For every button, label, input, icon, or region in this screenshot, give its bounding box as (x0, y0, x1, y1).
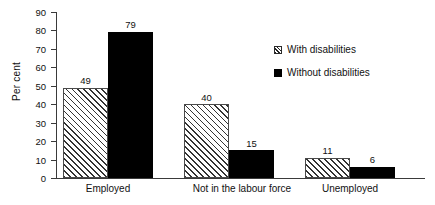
bar-value-employed-without-disabilities: 79 (108, 20, 153, 30)
x-axis-line (56, 178, 425, 179)
y-tick-label-30: 30 (14, 119, 46, 129)
bar-value-employed-with-disabilities: 49 (63, 76, 108, 86)
y-tick-label-10: 10 (14, 156, 46, 166)
legend-label-with-disabilities: With disabilities (287, 45, 356, 55)
bar-value-unemployed-with-disabilities: 11 (305, 146, 350, 156)
bar-value-not-in-labour-force-with-disabilities: 40 (184, 93, 229, 103)
y-tick-label-90: 90 (14, 8, 46, 18)
bar-chart: Per cent 90 80 70 60 50 40 30 20 10 0 49… (0, 0, 435, 205)
bar-unemployed-without-disabilities[interactable] (350, 167, 395, 178)
y-tick-label-40: 40 (14, 100, 46, 110)
bar-value-not-in-labour-force-without-disabilities: 15 (229, 139, 274, 149)
legend-item-with-disabilities[interactable]: With disabilities (274, 42, 370, 58)
legend-item-without-disabilities[interactable]: Without disabilities (274, 65, 370, 81)
bar-employed-without-disabilities[interactable] (108, 32, 153, 178)
bar-not-in-labour-force-without-disabilities[interactable] (229, 150, 274, 178)
hatched-swatch-icon (274, 46, 282, 54)
y-tick-label-70: 70 (14, 45, 46, 55)
y-tick-label-60: 60 (14, 63, 46, 73)
y-tick-label-50: 50 (14, 82, 46, 92)
bar-unemployed-with-disabilities[interactable] (305, 158, 350, 178)
y-tick-0 (51, 178, 56, 179)
y-tick-label-80: 80 (14, 26, 46, 36)
legend: With disabilities Without disabilities (274, 42, 370, 88)
bar-value-unemployed-without-disabilities: 6 (350, 155, 395, 165)
y-tick-label-20: 20 (14, 137, 46, 147)
solid-swatch-icon (274, 69, 282, 77)
bar-not-in-labour-force-with-disabilities[interactable] (184, 104, 229, 178)
x-category-label-unemployed: Unemployed (305, 183, 395, 194)
plot-area: 49 79 40 15 11 6 (56, 12, 425, 178)
legend-label-without-disabilities: Without disabilities (287, 68, 370, 78)
y-tick-label-0: 0 (14, 174, 46, 184)
bar-employed-with-disabilities[interactable] (63, 88, 108, 178)
